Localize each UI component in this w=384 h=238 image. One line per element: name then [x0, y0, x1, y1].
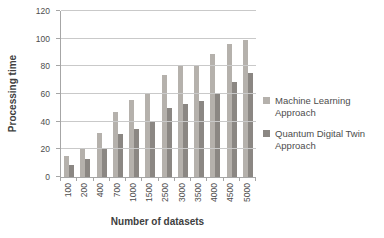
x-axis-tick	[159, 178, 175, 181]
y-axis-tick	[56, 65, 60, 66]
x-axis-tick	[77, 178, 93, 181]
x-axis-tick	[110, 178, 126, 181]
x-tick-label: 200	[76, 183, 92, 213]
y-axis-tick	[56, 93, 60, 94]
legend-item: Quantum Digital Twin Approach	[263, 128, 381, 152]
x-tick-label: 3000	[174, 183, 190, 213]
bar-groups	[61, 11, 256, 177]
bar-quantum-digital-twin-approach	[134, 129, 139, 177]
bar-quantum-digital-twin-approach	[150, 122, 155, 177]
x-axis-tick	[224, 178, 240, 181]
bar-group	[77, 11, 93, 177]
bar-quantum-digital-twin-approach	[102, 148, 107, 177]
bar-quantum-digital-twin-approach	[85, 159, 90, 177]
x-tick-label: 700	[109, 183, 125, 213]
bar-group	[61, 11, 77, 177]
y-tick-label: 100	[10, 34, 50, 44]
plot-area	[60, 11, 256, 178]
bar-quantum-digital-twin-approach	[183, 104, 188, 177]
bar-group	[224, 11, 240, 177]
bar-group	[126, 11, 142, 177]
x-axis-labels: 1002004007001000150025003000350040004500…	[60, 183, 255, 213]
y-tick-label: 20	[10, 144, 50, 154]
x-axis-tick	[175, 178, 191, 181]
gridline	[61, 148, 256, 149]
y-tick-label: 120	[10, 6, 50, 16]
bar-quantum-digital-twin-approach	[232, 82, 237, 177]
bar-quantum-digital-twin-approach	[167, 108, 172, 177]
gridline	[61, 10, 256, 11]
y-axis-tick	[56, 148, 60, 149]
legend-label: Quantum Digital Twin Approach	[275, 128, 375, 152]
gridline	[61, 38, 256, 39]
y-axis-tick	[56, 121, 60, 122]
gridline	[61, 93, 256, 94]
x-tick-label: 1000	[125, 183, 141, 213]
x-axis-tick	[61, 178, 77, 181]
bar-quantum-digital-twin-approach	[248, 73, 253, 177]
gridline	[61, 121, 256, 122]
gridline	[61, 65, 256, 66]
x-tick-label: 5000	[239, 183, 255, 213]
x-axis-tick	[126, 178, 142, 181]
x-tick-label: 4500	[223, 183, 239, 213]
x-axis-tick	[142, 178, 158, 181]
x-axis-ticks	[60, 178, 256, 181]
x-axis-title: Number of datasets	[60, 216, 255, 227]
x-tick-label: 4000	[206, 183, 222, 213]
bar-group	[207, 11, 223, 177]
y-axis-tick	[56, 10, 60, 11]
y-tick-label: 60	[10, 89, 50, 99]
bar-quantum-digital-twin-approach	[69, 165, 74, 177]
x-axis-tick	[191, 178, 207, 181]
bar-group	[175, 11, 191, 177]
bar-quantum-digital-twin-approach	[118, 134, 123, 177]
legend-marker-quantum-digital-twin-approach	[263, 130, 270, 137]
legend-label: Machine Learning Approach	[275, 95, 375, 119]
bar-group	[191, 11, 207, 177]
x-tick-label: 1500	[141, 183, 157, 213]
y-tick-label: 40	[10, 117, 50, 127]
y-axis-tick	[56, 38, 60, 39]
bar-quantum-digital-twin-approach	[215, 94, 220, 177]
x-axis-tick	[94, 178, 110, 181]
y-tick-label: 0	[10, 172, 50, 182]
bar-group	[142, 11, 158, 177]
x-tick-label: 3500	[190, 183, 206, 213]
x-axis-tick	[240, 178, 256, 181]
bar-group	[110, 11, 126, 177]
legend: Machine Learning ApproachQuantum Digital…	[263, 95, 381, 161]
bar-group	[159, 11, 175, 177]
x-axis-tick	[207, 178, 223, 181]
x-tick-label: 100	[60, 183, 76, 213]
bar-group	[240, 11, 256, 177]
legend-item: Machine Learning Approach	[263, 95, 381, 119]
x-tick-label: 400	[93, 183, 109, 213]
x-tick-label: 2500	[158, 183, 174, 213]
legend-marker-machine-learning-approach	[263, 97, 270, 104]
y-axis-tick	[56, 176, 60, 177]
bar-group	[94, 11, 110, 177]
bar-chart: Processing time 100200400700100015002500…	[0, 0, 384, 238]
y-tick-label: 80	[10, 61, 50, 71]
bar-quantum-digital-twin-approach	[199, 101, 204, 177]
